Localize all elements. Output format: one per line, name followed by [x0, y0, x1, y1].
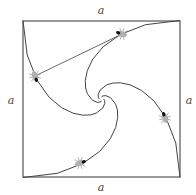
label-bottom: a [98, 181, 105, 194]
bug-icon [157, 110, 172, 124]
curve-from-bottom-right [98, 83, 180, 178]
square [23, 21, 180, 177]
pursuit-diagram: a a a a [0, 0, 196, 195]
curve-from-bottom-left [23, 96, 118, 178]
line-of-sight [35, 34, 122, 76]
bug-icon [114, 26, 128, 41]
bug-icon [28, 69, 43, 83]
label-top: a [98, 4, 105, 17]
curve-from-top-right [85, 21, 180, 103]
curve-from-top-left [23, 21, 105, 116]
label-left: a [8, 94, 15, 107]
label-right: a [186, 94, 193, 107]
bug-icon [73, 155, 87, 170]
